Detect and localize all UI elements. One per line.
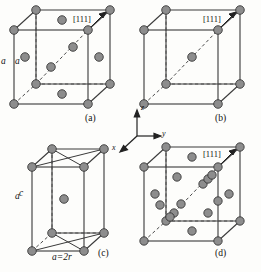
panel-caption-b: (b) xyxy=(215,114,226,124)
axis-x-line xyxy=(124,136,137,148)
axis-y-arrowhead xyxy=(154,133,161,138)
crystal-structure-figure: z y x (a) (b) (c) (d) a a c a=2r a [111]… xyxy=(0,0,261,272)
base-label-c: a=2r xyxy=(52,253,72,263)
axis-z-label: z xyxy=(141,104,144,112)
panel-caption-a: (a) xyxy=(85,114,96,124)
axis-y-label: y xyxy=(162,130,166,138)
coordinate-axes: z y x xyxy=(110,106,170,158)
panel-caption-d: (d) xyxy=(215,249,226,259)
diagonal-111-a xyxy=(36,30,88,84)
atoms-c xyxy=(28,145,109,256)
panel-caption-c: (c) xyxy=(98,249,109,259)
axis-z-arrowhead xyxy=(134,110,139,117)
axis-x-label: x xyxy=(112,144,116,152)
edge-label-d: a xyxy=(15,192,20,202)
edge-label-a: a xyxy=(1,57,6,67)
direction-label-b: [111] xyxy=(203,15,221,24)
direction-label-a: [111] xyxy=(73,15,91,24)
direction-label-d: [111] xyxy=(203,150,221,159)
edge-label-b: a xyxy=(15,57,20,67)
